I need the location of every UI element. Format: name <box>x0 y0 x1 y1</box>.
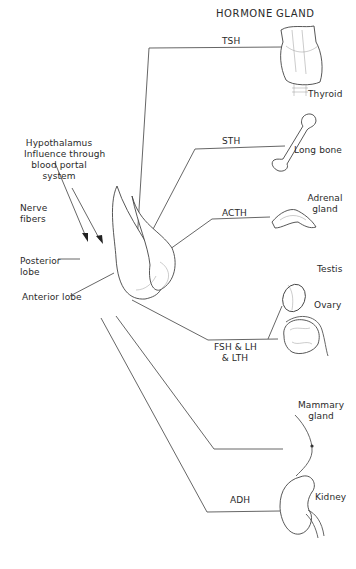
label-line: blood portal <box>24 160 94 171</box>
label-line: gland <box>306 204 344 215</box>
thyroid-icon <box>281 26 322 96</box>
label-line: Hypothalamus <box>24 138 94 149</box>
bone-icon <box>272 114 316 171</box>
gland-thyroid: Thyroid <box>308 89 342 100</box>
label-line: FSH & LH <box>214 342 256 353</box>
gland-ovary: Ovary <box>314 300 341 311</box>
label-line: Adrenal <box>306 193 344 204</box>
label-line: Mammary <box>298 400 344 411</box>
gland-kidney: Kidney <box>315 492 346 503</box>
arrow-head-icon <box>96 235 103 244</box>
anterior-lobe-label: Anterior lobe <box>22 292 82 303</box>
testis-branch-line <box>268 306 282 339</box>
hormone-adh: ADH <box>230 495 250 506</box>
hormone-acth: ACTH <box>222 208 247 219</box>
testis <box>279 281 309 315</box>
arrow-head-icon <box>82 233 88 242</box>
ovary <box>284 320 319 354</box>
hormone-tsh: TSH <box>222 36 240 47</box>
gland-column-header: GLAND <box>276 8 315 19</box>
label-line: fibers <box>20 214 47 225</box>
gonad-icon <box>279 281 328 356</box>
hypothalamus-label: Hypothalamus Influence through blood por… <box>24 138 94 182</box>
label-line: Influence through <box>24 149 94 160</box>
label-line: Nerve <box>20 203 47 214</box>
label-line: gland <box>298 411 344 422</box>
gland-adrenal: Adrenal gland <box>306 193 344 215</box>
gland-long-bone: Long bone <box>294 145 342 156</box>
hormone-sth: STH <box>222 136 240 147</box>
label-line: Posterior <box>20 256 61 267</box>
hormone-column-header: HORMONE <box>216 8 273 19</box>
pituitary-hormone-diagram <box>0 0 356 569</box>
pituitary-gland <box>58 186 175 299</box>
gland-mammary: Mammary gland <box>298 400 344 422</box>
fsh-line <box>132 300 278 340</box>
label-line: & LTH <box>214 353 256 364</box>
hormone-fsh-lh-lth: FSH & LH & LTH <box>214 342 256 364</box>
tsh-line <box>137 47 283 242</box>
kidney-icon <box>280 476 324 538</box>
gland-testis: Testis <box>317 264 343 275</box>
label-line: lobe <box>20 267 61 278</box>
nerve-fibers-label: Nerve fibers <box>20 203 47 225</box>
mammary-icon <box>295 415 314 476</box>
label-line: system <box>24 171 94 182</box>
posterior-lobe-label: Posterior lobe <box>20 256 61 278</box>
